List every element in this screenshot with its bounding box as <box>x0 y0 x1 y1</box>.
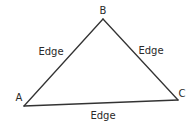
edge-label-a-c: Edge <box>90 111 115 121</box>
vertex-label-a: A <box>16 93 23 103</box>
vertex-label-b: B <box>100 6 107 16</box>
edge-a-b <box>24 19 103 106</box>
edge-label-b-c: Edge <box>138 46 163 56</box>
edge-a-c <box>24 100 178 106</box>
edge-label-a-b: Edge <box>38 47 63 57</box>
vertex-label-c: C <box>179 89 186 99</box>
triangle-diagram: A B C Edge Edge Edge <box>0 0 195 126</box>
edge-b-c <box>103 19 178 100</box>
triangle-svg <box>0 0 195 126</box>
